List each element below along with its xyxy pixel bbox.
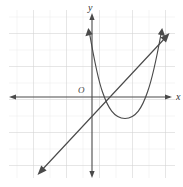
x-axis-label: x bbox=[175, 91, 181, 102]
graph-figure: y x O bbox=[0, 0, 183, 187]
origin-label: O bbox=[78, 85, 85, 95]
y-axis-label: y bbox=[87, 2, 93, 13]
coordinate-plane-svg: y x O bbox=[0, 0, 183, 187]
